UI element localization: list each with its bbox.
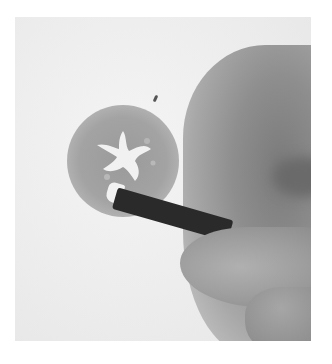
- photo: [15, 17, 311, 341]
- white-star-figure: [93, 127, 163, 197]
- pencil-mark: [153, 95, 159, 103]
- lower-finger: [245, 287, 311, 341]
